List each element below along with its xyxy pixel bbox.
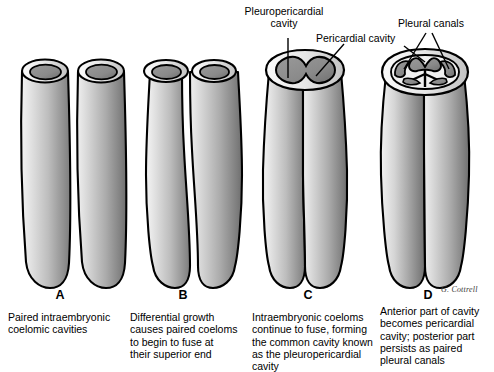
panel-b-artwork	[144, 60, 242, 288]
panel-d-artwork	[381, 33, 470, 288]
panel-letter-c: C	[288, 288, 328, 302]
callout-pleuropericardial-cavity: Pleuropericardial cavity	[228, 6, 340, 29]
artist-signature: G. Cottrell	[441, 285, 478, 294]
panel-caption-b: Differential growth causes paired coelom…	[130, 311, 248, 360]
panel-caption-c: Intraembryonic coeloms continue to fuse,…	[252, 311, 378, 372]
panel-caption-a: Paired intraembryonic coelomic cavities	[8, 311, 126, 336]
panel-caption-d: Anterior part of cavity becomes pericard…	[380, 305, 492, 366]
panel-letter-a: A	[40, 288, 80, 302]
callout-pericardial-cavity: Pericardial cavity	[316, 33, 428, 45]
panel-c-artwork	[263, 38, 347, 288]
callout-pleural-canals: Pleural canals	[398, 18, 494, 30]
panel-letter-b: B	[163, 288, 203, 302]
panel-a-artwork	[21, 60, 126, 289]
